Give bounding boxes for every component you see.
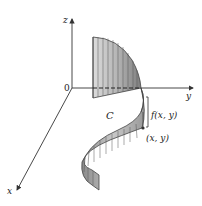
- curtain-diagram: z y x 0 C f(x, y) (x, y): [0, 0, 202, 206]
- diagram-canvas: z y x 0 C f(x, y) (x, y): [0, 0, 202, 206]
- height-label: f(x, y): [150, 110, 178, 120]
- curtain-lower: [82, 88, 145, 190]
- y-axis-label: y: [185, 91, 192, 101]
- curtain-upper: [93, 37, 141, 98]
- x-axis: [17, 88, 72, 190]
- curve-label: C: [106, 110, 114, 121]
- origin-label: 0: [64, 83, 70, 93]
- point-label: (x, y): [146, 133, 169, 143]
- point-marker: [141, 126, 144, 129]
- height-bracket: [146, 97, 148, 127]
- z-axis-label: z: [62, 15, 68, 25]
- x-axis-label: x: [7, 186, 12, 196]
